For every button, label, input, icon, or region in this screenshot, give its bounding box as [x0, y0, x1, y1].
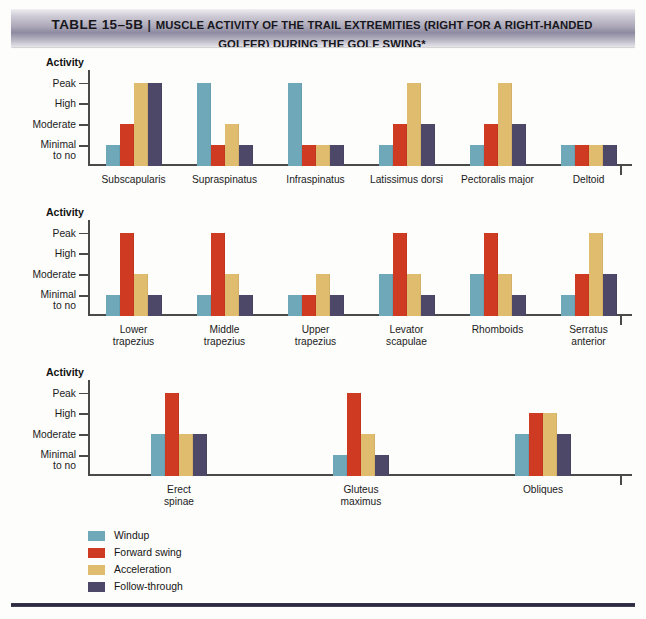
- bar-windup: [288, 83, 302, 167]
- y-tick-label-minimal: Minimalto no: [41, 289, 76, 311]
- y-tick-label-minimal: Minimalto no: [41, 449, 76, 471]
- bar-forward-swing: [302, 145, 316, 166]
- bar-follow-through: [421, 295, 435, 316]
- category-label: Supraspinatus: [179, 174, 270, 186]
- legend-item: Windup: [88, 528, 183, 543]
- bar-forward-swing: [393, 233, 407, 317]
- category-label: Serratus anterior: [543, 324, 634, 347]
- category-label: Obliques: [452, 484, 634, 496]
- bar-acceleration: [361, 434, 375, 476]
- legend-label: Acceleration: [114, 564, 171, 575]
- category-label: Upper trapezius: [270, 324, 361, 347]
- chart-legend: WindupForward swingAccelerationFollow-th…: [88, 528, 183, 596]
- bars: [288, 221, 344, 316]
- plot-area: Minimalto noModerateHighPeakLower trapez…: [88, 221, 634, 316]
- bar-follow-through: [557, 434, 571, 476]
- bar-forward-swing: [211, 233, 225, 317]
- chart-trunk-muscles: ActivityMinimalto noModerateHighPeakErec…: [0, 366, 646, 514]
- bar-windup: [288, 295, 302, 316]
- bar-forward-swing: [347, 393, 361, 477]
- bars: [106, 221, 162, 316]
- y-tick-high: [79, 253, 88, 255]
- bar-windup: [515, 434, 529, 476]
- category-label: Deltoid: [543, 174, 634, 186]
- bars: [470, 71, 526, 166]
- y-tick-label-peak: Peak: [53, 227, 76, 238]
- bar-windup: [197, 295, 211, 316]
- bar-forward-swing: [302, 295, 316, 316]
- bar-acceleration: [316, 145, 330, 166]
- bars: [151, 381, 207, 476]
- bar-follow-through: [239, 295, 253, 316]
- y-tick-label-peak: Peak: [53, 387, 76, 398]
- bar-forward-swing: [484, 124, 498, 166]
- bar-group: Serratus anterior: [543, 221, 634, 316]
- y-tick-label-high: High: [55, 408, 76, 419]
- bars: [515, 381, 571, 476]
- bar-forward-swing: [393, 124, 407, 166]
- category-label: Gluteus maximus: [270, 484, 452, 507]
- legend-label: Follow-through: [114, 581, 183, 592]
- bar-follow-through: [512, 295, 526, 316]
- bar-group: Latissimus dorsi: [361, 71, 452, 166]
- legend-swatch-icon: [88, 548, 105, 558]
- y-tick-high: [79, 413, 88, 415]
- bar-forward-swing: [575, 145, 589, 166]
- bar-group: Upper trapezius: [270, 221, 361, 316]
- bar-acceleration: [407, 274, 421, 316]
- y-tick-moderate: [79, 124, 88, 126]
- plot-area: Minimalto noModerateHighPeakErect spinae…: [88, 381, 634, 476]
- axis-title: Activity: [46, 56, 84, 68]
- bar-acceleration: [179, 434, 193, 476]
- y-tick-minimal: [79, 295, 88, 297]
- bar-group: Lower trapezius: [88, 221, 179, 316]
- category-label: Latissimus dorsi: [361, 174, 452, 186]
- bar-follow-through: [239, 145, 253, 166]
- y-tick-peak: [79, 233, 88, 235]
- legend-item: Forward swing: [88, 545, 183, 560]
- bar-group: Supraspinatus: [179, 71, 270, 166]
- axis-title: Activity: [46, 366, 84, 378]
- bar-windup: [333, 455, 347, 476]
- bar-windup: [379, 274, 393, 316]
- bars: [379, 221, 435, 316]
- chart-shoulder-muscles: ActivityMinimalto noModerateHighPeakSubs…: [0, 56, 646, 196]
- bar-forward-swing: [529, 413, 543, 476]
- bar-group: Middle trapezius: [179, 221, 270, 316]
- y-tick-peak: [79, 393, 88, 395]
- bar-groups: Lower trapeziusMiddle trapeziusUpper tra…: [88, 221, 634, 316]
- plot-area: Minimalto noModerateHighPeakSubscapulari…: [88, 71, 634, 166]
- category-label: Middle trapezius: [179, 324, 270, 347]
- bar-windup: [106, 295, 120, 316]
- category-label: Pectoralis major: [452, 174, 543, 186]
- bar-acceleration: [498, 274, 512, 316]
- bar-acceleration: [589, 233, 603, 317]
- y-tick-label-moderate: Moderate: [32, 269, 76, 280]
- axis-title: Activity: [46, 206, 84, 218]
- bar-windup: [561, 295, 575, 316]
- bars: [561, 71, 617, 166]
- bars: [106, 71, 162, 166]
- bar-follow-through: [193, 434, 207, 476]
- y-tick-moderate: [79, 274, 88, 276]
- y-tick-label-high: High: [55, 248, 76, 259]
- bars: [197, 221, 253, 316]
- bar-windup: [561, 145, 575, 166]
- category-label: Lower trapezius: [88, 324, 179, 347]
- table-title-line2: GOLFER) DURING THE GOLF SWING*: [218, 38, 426, 47]
- bars: [333, 381, 389, 476]
- y-tick-label-moderate: Moderate: [32, 119, 76, 130]
- y-tick-minimal: [79, 145, 88, 147]
- bar-follow-through: [330, 295, 344, 316]
- bar-forward-swing: [575, 274, 589, 316]
- category-label: Erect spinae: [88, 484, 270, 507]
- legend-swatch-icon: [88, 565, 105, 575]
- legend-swatch-icon: [88, 582, 105, 592]
- bars: [197, 71, 253, 166]
- bar-follow-through: [512, 124, 526, 166]
- bar-follow-through: [330, 145, 344, 166]
- table-header-banner: TABLE 15–5B|MUSCLE ACTIVITY OF THE TRAIL…: [11, 9, 635, 47]
- bar-acceleration: [316, 274, 330, 316]
- bar-follow-through: [148, 295, 162, 316]
- bar-group: Gluteus maximus: [270, 381, 452, 476]
